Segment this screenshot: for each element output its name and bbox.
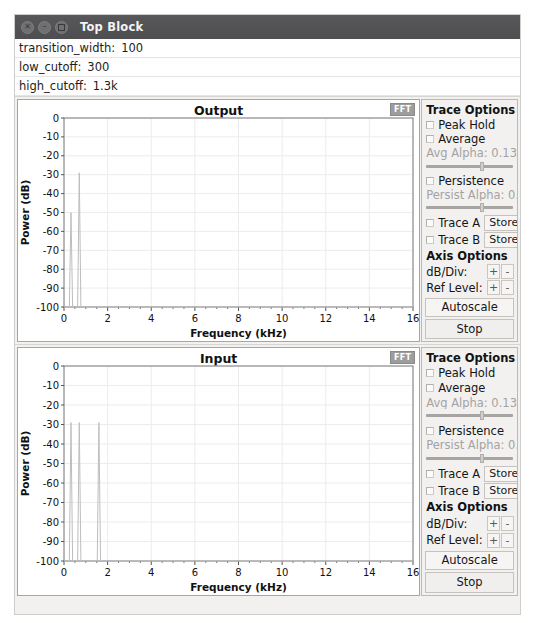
db-div-plus-button[interactable]: + xyxy=(487,516,500,531)
ref-level-minus-button[interactable]: - xyxy=(501,533,514,548)
svg-text:-100: -100 xyxy=(36,556,59,567)
ref-level-row: Ref Level: + - xyxy=(422,280,517,296)
checkbox-icon[interactable] xyxy=(426,236,434,244)
avg-alpha-slider[interactable] xyxy=(426,161,513,172)
db-div-row: dB/Div: + - xyxy=(422,515,517,532)
persist-alpha-slider[interactable] xyxy=(426,453,513,464)
svg-text:0: 0 xyxy=(53,361,59,372)
param-row-low-cutoff: low_cutoff: xyxy=(15,58,520,77)
trace-options-header: Trace Options xyxy=(422,102,517,118)
ref-level-steppers: + - xyxy=(486,533,514,548)
axis-options-header: Axis Options xyxy=(422,248,517,264)
average-checkbox[interactable]: Average xyxy=(422,381,517,396)
stop-button[interactable]: Stop xyxy=(425,319,514,339)
persist-alpha-slider[interactable] xyxy=(426,202,513,213)
svg-text:4: 4 xyxy=(148,313,154,324)
persistence-checkbox[interactable]: Persistence xyxy=(422,174,517,188)
db-div-minus-button[interactable]: - xyxy=(501,516,514,531)
svg-text:12: 12 xyxy=(319,313,332,324)
high-cutoff-label: high_cutoff: xyxy=(19,79,87,93)
svg-text:0: 0 xyxy=(61,567,67,578)
low-cutoff-label: low_cutoff: xyxy=(19,60,81,74)
input-trace-options-panel: Trace Options Peak Hold Average Avg Alph… xyxy=(421,347,518,596)
minimize-icon[interactable]: – xyxy=(38,21,51,34)
checkbox-icon[interactable] xyxy=(426,219,434,227)
slider-knob[interactable] xyxy=(480,162,484,171)
transition-width-label: transition_width: xyxy=(19,41,115,55)
trace-a-row: Trace A Store xyxy=(422,466,517,483)
db-div-steppers: + - xyxy=(486,516,514,531)
avg-alpha-label: Avg Alpha: 0.1333 xyxy=(422,396,517,410)
avg-alpha-slider[interactable] xyxy=(426,410,513,421)
output-plot-pane[interactable]: Output FFT 0-10-20-30-40-50-60-70-80-90-… xyxy=(17,99,420,342)
trace-b-label: Trace B xyxy=(438,484,480,498)
slider-track xyxy=(426,414,513,417)
svg-text:16: 16 xyxy=(407,567,419,578)
svg-text:8: 8 xyxy=(235,313,241,324)
svg-text:-60: -60 xyxy=(43,226,59,237)
checkbox-icon xyxy=(426,121,434,129)
svg-text:Power (dB): Power (dB) xyxy=(19,431,31,497)
slider-track xyxy=(426,206,513,209)
close-icon[interactable]: ✕ xyxy=(21,21,34,34)
ref-level-row: Ref Level: + - xyxy=(422,532,517,549)
transition-width-input[interactable] xyxy=(119,40,520,57)
svg-text:14: 14 xyxy=(363,313,376,324)
window-titlebar[interactable]: ✕ – Top Block xyxy=(15,15,520,39)
average-label: Average xyxy=(438,132,485,146)
svg-text:-40: -40 xyxy=(43,188,59,199)
trace-a-store-button[interactable]: Store xyxy=(484,466,518,482)
peak-hold-checkbox[interactable]: Peak Hold xyxy=(422,366,517,381)
ref-level-plus-button[interactable]: + xyxy=(487,533,500,548)
svg-text:-50: -50 xyxy=(43,458,59,469)
slider-track xyxy=(426,165,513,168)
svg-text:-90: -90 xyxy=(43,283,59,294)
checkbox-icon xyxy=(426,384,434,392)
checkbox-icon xyxy=(426,135,434,143)
slider-knob[interactable] xyxy=(480,454,484,463)
trace-b-store-button[interactable]: Store xyxy=(484,483,518,499)
svg-text:0: 0 xyxy=(61,313,67,324)
trace-a-row: Trace A Store xyxy=(422,215,517,231)
persistence-checkbox[interactable]: Persistence xyxy=(422,423,517,438)
trace-b-row: Trace B Store xyxy=(422,483,517,500)
slider-knob[interactable] xyxy=(480,203,484,212)
svg-text:0: 0 xyxy=(53,113,59,124)
autoscale-button[interactable]: Autoscale xyxy=(425,298,514,317)
svg-text:-80: -80 xyxy=(43,264,59,275)
svg-text:6: 6 xyxy=(192,567,198,578)
maximize-icon[interactable] xyxy=(55,21,68,34)
stop-button[interactable]: Stop xyxy=(425,572,514,593)
trace-options-header: Trace Options xyxy=(422,350,517,366)
low-cutoff-input[interactable] xyxy=(85,59,520,76)
trace-a-store-button[interactable]: Store xyxy=(484,215,518,231)
checkbox-icon xyxy=(426,369,434,377)
slider-knob[interactable] xyxy=(480,411,484,420)
db-div-minus-button[interactable]: - xyxy=(501,264,514,279)
ref-level-plus-button[interactable]: + xyxy=(487,280,500,295)
checkbox-icon[interactable] xyxy=(426,487,434,495)
parameter-list: transition_width: low_cutoff: high_cutof… xyxy=(15,39,520,96)
svg-text:-100: -100 xyxy=(36,302,59,313)
checkbox-icon[interactable] xyxy=(426,470,434,478)
svg-text:16: 16 xyxy=(407,313,419,324)
autoscale-button[interactable]: Autoscale xyxy=(425,551,514,571)
svg-text:2: 2 xyxy=(104,567,110,578)
window-title: Top Block xyxy=(80,20,143,34)
input-plot-pane[interactable]: Input FFT 0-10-20-30-40-50-60-70-80-90-1… xyxy=(17,347,420,596)
average-checkbox[interactable]: Average xyxy=(422,132,517,146)
top-block-window: ✕ – Top Block transition_width: low_cuto… xyxy=(14,14,521,615)
persistence-label: Persistence xyxy=(438,424,504,438)
high-cutoff-input[interactable] xyxy=(91,78,520,95)
trace-a-label: Trace A xyxy=(438,216,480,230)
svg-text:4: 4 xyxy=(148,567,154,578)
ref-level-minus-button[interactable]: - xyxy=(501,280,514,295)
svg-text:14: 14 xyxy=(363,567,376,578)
svg-text:Power (dB): Power (dB) xyxy=(19,180,31,246)
peak-hold-checkbox[interactable]: Peak Hold xyxy=(422,118,517,132)
svg-text:Frequency (kHz): Frequency (kHz) xyxy=(190,581,287,593)
slider-track xyxy=(426,457,513,460)
ref-level-steppers: + - xyxy=(486,280,514,295)
trace-b-store-button[interactable]: Store xyxy=(484,232,518,248)
db-div-plus-button[interactable]: + xyxy=(487,264,500,279)
